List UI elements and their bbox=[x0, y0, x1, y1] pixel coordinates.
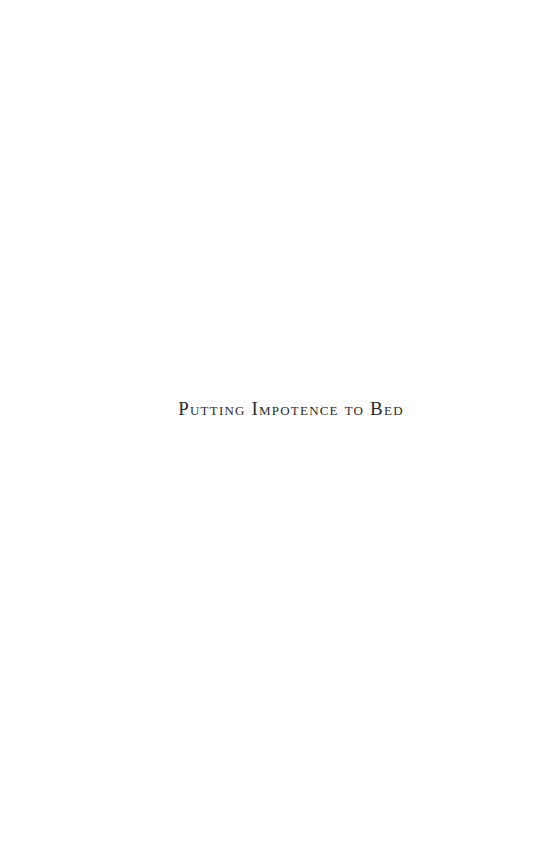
half-title: Putting Impotence to Bed bbox=[0, 398, 537, 420]
book-page: Putting Impotence to Bed bbox=[0, 0, 537, 858]
